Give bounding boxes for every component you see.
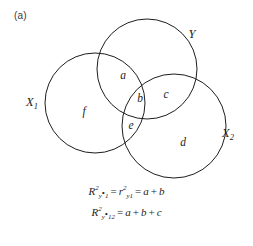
venn-diagram-figure: (a) X1 Y X2 abcdef R2y•1=r2y1=a+b R2y•12… — [0, 0, 253, 246]
set-label-y: Y — [189, 27, 198, 41]
set-circle-x1 — [45, 53, 145, 153]
region-label-a: a — [120, 69, 126, 81]
region-label-b: b — [137, 92, 143, 104]
region-label-d: d — [180, 136, 186, 148]
set-label-x1: X1 — [25, 95, 38, 111]
region-label-f: f — [82, 105, 87, 118]
equation-1: R2y•1=r2y1=a+b — [0, 186, 253, 198]
set-circles — [45, 19, 226, 178]
region-label-c: c — [163, 88, 168, 100]
set-circle-y — [97, 19, 197, 119]
set-circle-x2 — [122, 74, 226, 178]
region-label-e: e — [128, 119, 133, 131]
equation-block: R2y•1=r2y1=a+b R2y•12=a+b+c — [0, 186, 253, 228]
equation-2: R2y•12=a+b+c — [0, 207, 253, 219]
set-label-x2: X2 — [221, 126, 235, 142]
